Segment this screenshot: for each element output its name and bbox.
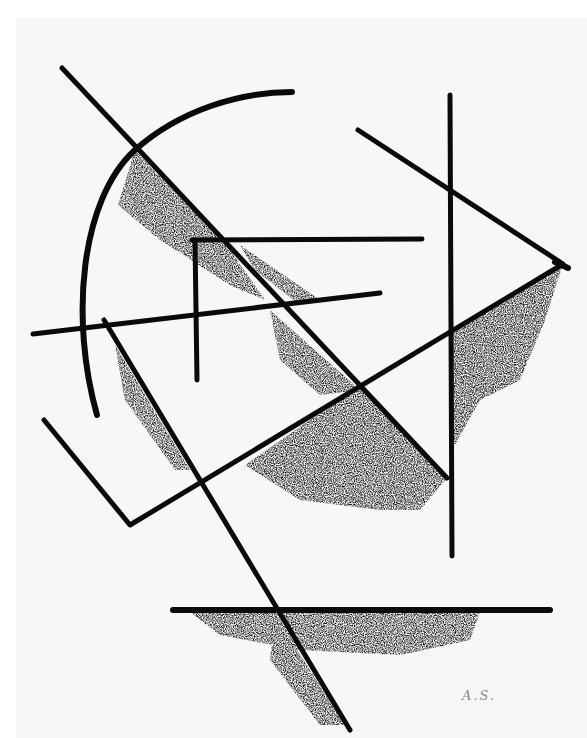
shading-right-wedge xyxy=(452,264,563,450)
drawing xyxy=(0,0,587,738)
signature: A.S. xyxy=(462,688,496,703)
top-horizontal-line xyxy=(192,239,422,240)
shading-bottom-bar xyxy=(190,612,480,655)
shading-left-diagonal xyxy=(115,345,190,470)
shading-mid-diagonal xyxy=(240,245,320,305)
artwork-canvas: A.S. xyxy=(0,0,587,738)
right-vertical-line xyxy=(450,95,452,556)
short-vertical-line xyxy=(195,240,197,380)
long-diagonal-line xyxy=(62,68,447,478)
shading-upper-left xyxy=(118,150,265,300)
shading-center xyxy=(270,310,360,395)
shading-group xyxy=(115,150,563,725)
